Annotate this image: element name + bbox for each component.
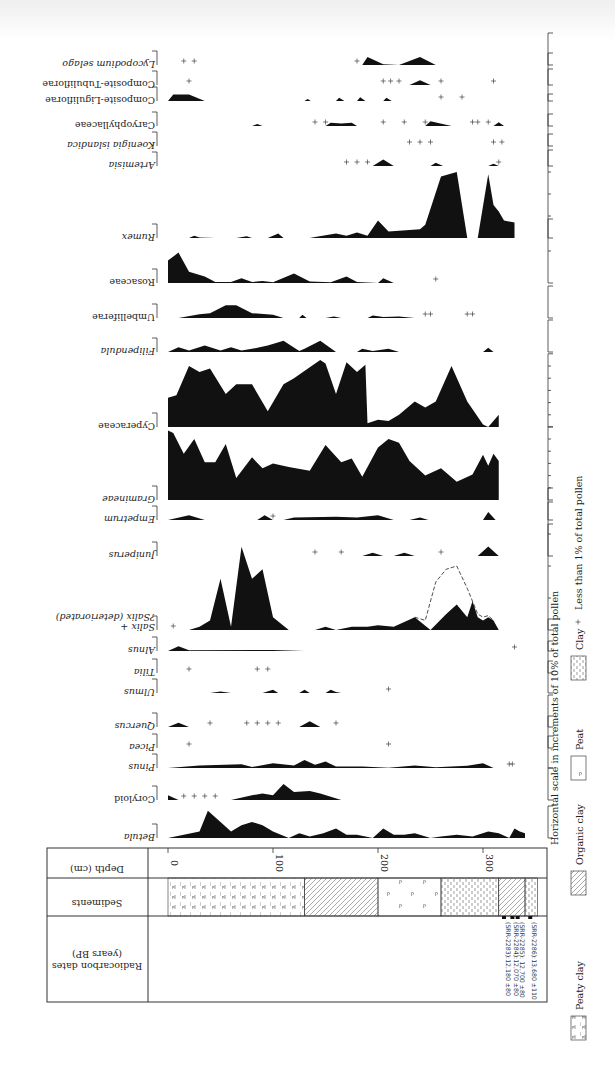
- taxon-lycopodium-selago: Lycopodium selago: [62, 51, 436, 70]
- taxon-empetrum: Empetrum: [104, 506, 496, 525]
- trace-plus-marker: [171, 624, 176, 629]
- header-table: Depth (cm)SedimentsRadiocarbon dates(yea…: [47, 848, 547, 1002]
- trace-plus-marker: [213, 794, 218, 799]
- taxon-composite-tubuliflorae: Composite-Tubuliflorae: [42, 71, 496, 90]
- taxon-silhouette: [168, 430, 499, 500]
- trace-plus-marker: [470, 312, 475, 317]
- scale-bracket: [548, 114, 553, 146]
- trace-plus-marker: [470, 120, 475, 125]
- legend-label-organic-clay: Organic clay: [574, 803, 585, 865]
- trace-plus-marker: [334, 721, 339, 726]
- sediment-unit: [525, 878, 538, 916]
- trace-plus-marker: [313, 120, 318, 125]
- scale-bracket: [548, 524, 553, 556]
- taxon-gramineae: Gramineae: [102, 430, 499, 505]
- taxon-label: Umbelliferae: [92, 312, 155, 323]
- trace-plus-marker: [460, 95, 465, 100]
- scale-bracket: [548, 427, 553, 500]
- trace-plus-marker: [486, 120, 491, 125]
- taxon-rumex: Rumex: [121, 172, 514, 243]
- legend-swatch-peat: [571, 756, 586, 780]
- scale-bracket: [548, 488, 553, 520]
- trace-plus-marker: [428, 312, 433, 317]
- sediments-label: Sediments: [72, 898, 123, 909]
- scale-bracket: [548, 150, 553, 238]
- radiocarbon-date: (SRR-2285): 12,700 ±80: [519, 922, 526, 998]
- taxon-label: Ulmus: [124, 687, 155, 698]
- trace-plus-marker: [510, 762, 515, 767]
- sediment-unit: [305, 878, 379, 916]
- taxon-label: Composite-Tubuliflorae: [42, 79, 155, 90]
- taxon-label: Composite-Liguliflorae: [45, 95, 155, 106]
- taxon-ulmus: Ulmus: [124, 679, 391, 698]
- trace-plus-marker: [423, 312, 428, 317]
- depth-tick-label: 200: [379, 854, 390, 872]
- taxon-picea: Picea: [129, 734, 391, 753]
- trace-plus-marker: [208, 721, 213, 726]
- taxon-label: Rumex: [121, 232, 156, 243]
- taxon-label: Caryophyllaceae: [75, 120, 155, 131]
- trace-plus-marker: [423, 120, 428, 125]
- taxon-label: Pinus: [128, 762, 156, 773]
- taxon-label: Juniperus: [109, 550, 157, 561]
- trace-plus-marker: [418, 140, 423, 145]
- taxon-silhouette: [168, 253, 394, 283]
- trace-note: Less than 1% of total pollen: [573, 476, 584, 610]
- taxon-silhouette: [189, 547, 499, 630]
- scale-bracket-line: [548, 94, 553, 126]
- trace-plus-marker: [271, 514, 276, 519]
- trace-plus-marker: [339, 550, 344, 555]
- scale-bracket-line: [548, 286, 553, 318]
- trace-plus-marker: [255, 721, 260, 726]
- taxon-silhouette: [210, 690, 341, 693]
- trace-plus-marker: [388, 79, 393, 84]
- taxon-silhouette: [168, 360, 499, 427]
- taxon-label: Betula: [123, 832, 156, 843]
- taxon-alnus: Alnus: [128, 637, 517, 656]
- scale-bracket: [548, 286, 553, 318]
- trace-plus-marker: [355, 59, 360, 64]
- date-marker: [510, 916, 514, 919]
- depth-axis-label: Depth (cm): [70, 864, 124, 875]
- taxon-label: Quercus: [114, 721, 155, 732]
- taxon-cyperaceae: Cyperaceae: [98, 360, 499, 432]
- taxon-silhouette: [179, 305, 415, 318]
- depth-tick-label: 100: [274, 854, 285, 872]
- trace-plus-marker: [491, 140, 496, 145]
- legend: Horizontal scale in increments of 10% of…: [549, 476, 586, 1040]
- taxon-label: Alnus: [128, 645, 156, 656]
- trace-plus-marker: [381, 79, 386, 84]
- sediment-unit: [441, 878, 499, 916]
- radiocarbon-label: Radiocarbon dates: [52, 961, 143, 972]
- taxon-label: Picea: [129, 742, 156, 753]
- taxon-juniperus: Juniperus: [109, 542, 499, 561]
- trace-plus-marker: [433, 277, 438, 282]
- scale-bracket-line: [548, 114, 553, 146]
- taxon-silhouette: [362, 546, 499, 556]
- trace-plus-marker: [265, 721, 270, 726]
- trace-plus-marker: [475, 120, 480, 125]
- taxon-caryophyllaceae: Caryophyllaceae: [75, 112, 504, 131]
- legend-label-peaty-clay: Peaty clay: [574, 961, 585, 1010]
- taxon-label: Lycopodium selago: [62, 59, 156, 70]
- taxon-silhouette: [362, 57, 436, 65]
- taxon-koenigia-islandica: Koenigia islandica: [67, 132, 505, 151]
- taxon-label: Coryloid: [114, 794, 155, 805]
- taxon-label: Tilia: [134, 667, 155, 678]
- scale-bracket-line: [548, 488, 553, 520]
- scale-bracket: [548, 320, 553, 352]
- taxon-silhouette: [168, 95, 392, 101]
- scale-bracket-line: [548, 33, 553, 65]
- trace-plus-marker: [255, 667, 260, 672]
- trace-plus-marker: [192, 794, 197, 799]
- trace-plus-marker: [202, 794, 207, 799]
- taxon-label: Koenigia islandica: [67, 140, 156, 151]
- taxon-label: Empetrum: [104, 514, 156, 525]
- scale-bracket: [548, 219, 553, 283]
- trace-plus-marker: [276, 721, 281, 726]
- date-marker: [502, 916, 506, 919]
- taxon-silhouette: [168, 811, 525, 838]
- radiocarbon-date: (SRR-2283):12,180 ±80: [505, 922, 512, 996]
- trace-plus-marker: [381, 120, 386, 125]
- taxon-coryloid: Coryloid: [114, 784, 341, 805]
